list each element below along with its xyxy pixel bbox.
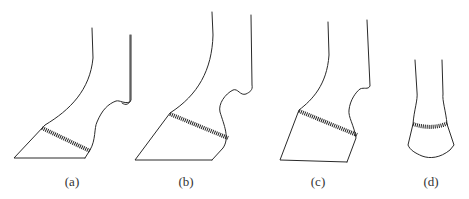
hoof-diagram — [0, 0, 469, 199]
hoof-d-left-outline — [408, 60, 454, 158]
hoof-a-heel-outline — [85, 35, 130, 158]
hoof-b-heel-outline — [212, 15, 252, 160]
hoof-c-heel-outline — [347, 20, 370, 162]
panel-label-a: (a) — [65, 174, 79, 190]
hoof-panel-b — [122, 12, 252, 160]
panel-label-b: (b) — [178, 174, 193, 190]
panel-label-d: (d) — [423, 174, 438, 190]
panel-label-c: (c) — [311, 174, 325, 190]
hoof-b-coronary-band — [170, 114, 228, 138]
hoof-c-coronary-band — [299, 111, 357, 135]
hoof-panel-d — [408, 60, 454, 158]
hoof-panel-c — [280, 20, 370, 162]
hoof-d-coronary-band — [413, 123, 448, 127]
hoof-panel-a — [14, 28, 130, 158]
hoof-a-front-outline — [14, 28, 93, 158]
hoof-b-front-outline — [135, 12, 213, 160]
hoof-c-front-outline — [280, 22, 347, 162]
hoof-a-coronary-band — [42, 128, 90, 151]
